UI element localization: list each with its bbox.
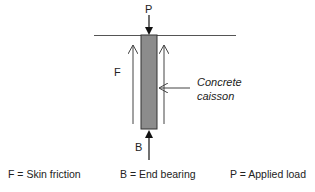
legend-applied-load: P = Applied load [230,168,306,180]
caisson-label-line2: caisson [197,90,234,102]
caisson-diagram [0,0,315,192]
legend-skin-friction: F = Skin friction [8,168,81,180]
legend-end-bearing: B = End bearing [120,168,196,180]
skin-friction-label: F [114,66,121,78]
end-bearing-label: B [135,141,142,153]
applied-load-label: P [145,3,152,15]
caisson-label-line1: Concrete [197,76,242,88]
concrete-caisson [141,35,157,129]
